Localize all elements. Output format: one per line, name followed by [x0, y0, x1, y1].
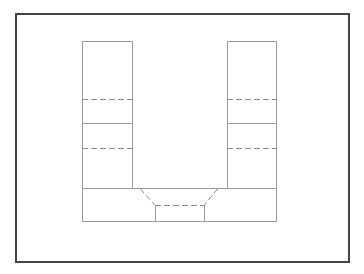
diagram-canvas — [0, 0, 364, 274]
outer-frame — [16, 14, 349, 262]
left-column — [83, 42, 133, 189]
recess-left-slope — [140, 189, 155, 206]
recess-right-slope — [204, 189, 218, 206]
right-column — [228, 42, 277, 189]
u-shape-drawing — [82, 42, 277, 222]
